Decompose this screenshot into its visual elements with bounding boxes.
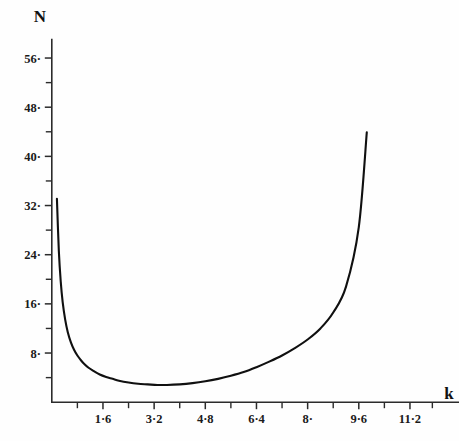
- y-tick-label: 40·: [24, 150, 41, 164]
- y-tick-label: 16·: [24, 297, 41, 311]
- y-tick-label: 32·: [24, 199, 41, 213]
- axes-group: [52, 40, 459, 403]
- y-tick-label: 48·: [24, 101, 41, 115]
- chart-figure: 8·16·24·32·40·48·56· 1·63·24·86·48·9·611…: [0, 0, 459, 441]
- y-tick-label: 56·: [24, 52, 41, 66]
- y-axis-title: N: [34, 7, 47, 26]
- x-tick-label: 3·2: [146, 412, 163, 426]
- y-tick-label: 8·: [30, 347, 40, 361]
- x-axis-title: k: [444, 384, 454, 403]
- x-tick-label: 9·6: [350, 412, 367, 426]
- x-tick-label: 6·4: [248, 412, 265, 426]
- x-tick-label: 4·8: [197, 412, 214, 426]
- x-axis-ticks: [77, 402, 432, 409]
- x-tick-label: 11·2: [399, 412, 421, 426]
- y-axis-ticks: [45, 58, 52, 378]
- data-curve-n-of-k: [57, 132, 367, 385]
- x-tick-label: 1·6: [95, 412, 112, 426]
- y-axis-tick-labels: 8·16·24·32·40·48·56·: [24, 52, 41, 361]
- x-tick-label: 8·: [302, 412, 312, 426]
- y-tick-label: 24·: [24, 248, 41, 262]
- data-series-group: [57, 132, 367, 385]
- x-axis-tick-labels: 1·63·24·86·48·9·611·2: [95, 412, 421, 426]
- plot-area: 8·16·24·32·40·48·56· 1·63·24·86·48·9·611…: [0, 0, 459, 441]
